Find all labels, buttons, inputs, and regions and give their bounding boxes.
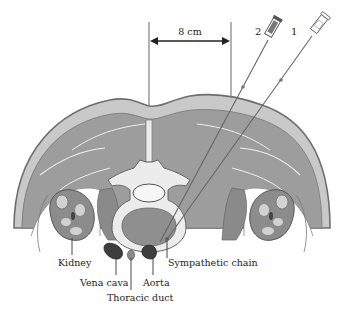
needle-2-label: 2 [255, 26, 261, 37]
vertebra [108, 160, 190, 252]
needle-1-label: 1 [291, 26, 297, 37]
label-kidney: Kidney [58, 257, 92, 268]
label-thoracic-duct: Thoracic duct [107, 292, 174, 303]
measurement-label: 8 cm [178, 26, 201, 37]
measurement-guides: 8 cm [149, 22, 231, 106]
label-aorta: Aorta [142, 277, 170, 288]
label-sympathetic-chain: Sympathetic chain [168, 257, 258, 268]
anatomy-diagram: 8 cm [0, 0, 343, 322]
aorta-shape [142, 245, 157, 259]
label-vena-cava: Vena cava [79, 277, 129, 288]
